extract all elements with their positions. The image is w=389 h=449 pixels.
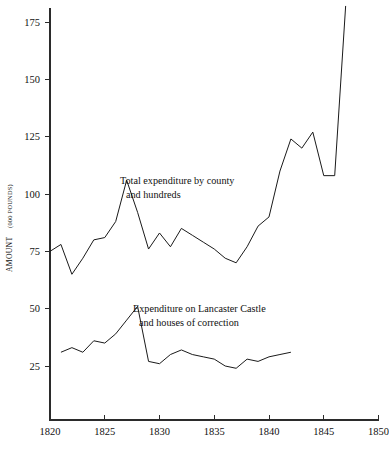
annotation-lancaster-line2: and houses of correction (139, 317, 239, 328)
annotation-total-line2: and hundreds (126, 189, 181, 200)
y-tick-label: 150 (24, 74, 40, 85)
x-tick-label: 1835 (204, 426, 225, 437)
y-axis-tick-labels: 255075100125150175 (24, 17, 40, 372)
axis-lines (50, 8, 379, 420)
y-axis-title-main: AMOUNT (5, 237, 14, 272)
series-line-lancaster-castle (61, 306, 291, 368)
x-axis-tick-labels: 1820182518301835184018451850 (40, 426, 389, 437)
series-annotation-total-expenditure: Total expenditure by county and hundreds (120, 175, 235, 200)
y-tick-label: 75 (30, 246, 41, 257)
y-axis-title: AMOUNT (000 POUNDS) (5, 184, 14, 272)
y-tick-label: 100 (24, 189, 40, 200)
x-tick-label: 1850 (368, 426, 389, 437)
x-tick-label: 1825 (94, 426, 115, 437)
x-axis-tick-marks (105, 415, 379, 420)
annotation-total-line1: Total expenditure by county (120, 175, 235, 186)
x-tick-label: 1840 (259, 426, 280, 437)
y-tick-label: 175 (24, 17, 40, 28)
chart-figure: 255075100125150175 182018251830183518401… (0, 0, 389, 449)
annotation-lancaster-line1: Expenditure on Lancaster Castle (133, 303, 266, 314)
y-tick-label: 125 (24, 131, 40, 142)
x-tick-label: 1845 (313, 426, 334, 437)
y-tick-label: 25 (30, 361, 41, 372)
series-annotation-lancaster-castle: Expenditure on Lancaster Castle and hous… (133, 303, 266, 328)
x-tick-label: 1830 (149, 426, 170, 437)
series-line-total-expenditure (50, 6, 346, 274)
x-tick-label: 1820 (40, 426, 61, 437)
line-chart-canvas: 255075100125150175 182018251830183518401… (0, 0, 389, 449)
y-axis-tick-marks (45, 22, 50, 366)
y-axis-title-unit: (000 POUNDS) (6, 184, 14, 228)
y-tick-label: 50 (30, 303, 41, 314)
